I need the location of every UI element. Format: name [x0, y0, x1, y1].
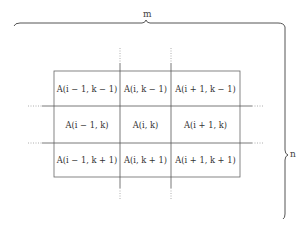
- top-brace: [14, 20, 285, 27]
- cell-r2-c2: A(i, k): [120, 106, 171, 143]
- cell-r3-c2: A(i, k + 1): [120, 143, 171, 177]
- cell-r3-c3: A(i + 1, k + 1): [171, 143, 240, 177]
- top-brace-label: m: [143, 9, 152, 19]
- cell-r1-c2: A(i, k − 1): [120, 71, 171, 106]
- cell-r2-c1: A(i − 1, k): [54, 106, 120, 143]
- cell-r1-c1: A(i − 1, k − 1): [54, 71, 120, 106]
- cell-r2-c3: A(i + 1, k): [171, 106, 240, 143]
- cell-r1-c3: A(i + 1, k − 1): [171, 71, 240, 106]
- cell-r3-c1: A(i − 1, k + 1): [54, 143, 120, 177]
- right-brace-label: n: [290, 149, 296, 159]
- right-brace: [283, 27, 288, 219]
